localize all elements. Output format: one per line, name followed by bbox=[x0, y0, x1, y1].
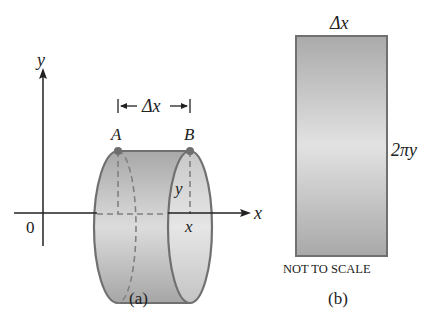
caption-a: (a) bbox=[129, 289, 148, 308]
width-label: Δx bbox=[329, 13, 349, 33]
not-to-scale-note: NOT TO SCALE bbox=[283, 262, 371, 276]
delta-arrowhead-left-icon bbox=[120, 103, 127, 109]
position-label: x bbox=[184, 217, 193, 236]
y-axis-label: y bbox=[35, 50, 45, 70]
point-a-label: A bbox=[110, 125, 122, 144]
delta-arrowhead-right-icon bbox=[181, 103, 188, 109]
figure: y x 0 Δx A B y x (a) Δx 2πy NOT TO SCALE… bbox=[0, 0, 444, 327]
radius-label: y bbox=[173, 179, 183, 198]
origin-label: 0 bbox=[26, 218, 35, 237]
height-label: 2πy bbox=[391, 140, 417, 160]
panel-b: Δx 2πy NOT TO SCALE (b) bbox=[283, 13, 417, 308]
caption-b: (b) bbox=[328, 289, 348, 308]
panel-a: y x 0 Δx A B y x (a) bbox=[14, 50, 262, 308]
x-axis-label: x bbox=[253, 203, 262, 223]
delta-x-label: Δx bbox=[141, 96, 161, 116]
point-b-label: B bbox=[184, 125, 195, 144]
unrolled-rectangle bbox=[296, 36, 387, 256]
